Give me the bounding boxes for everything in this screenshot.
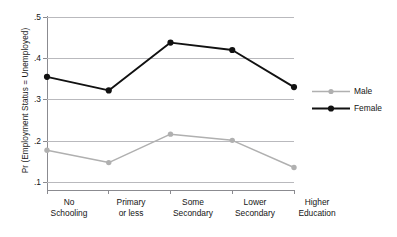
- series-line-female: [47, 43, 294, 91]
- data-point-male-3: [230, 138, 235, 143]
- data-point-male-1: [106, 160, 111, 165]
- legend-item-male: Male: [311, 85, 397, 102]
- data-point-female-4: [291, 84, 297, 90]
- data-point-female-2: [167, 39, 173, 45]
- data-point-male-0: [44, 148, 49, 153]
- data-point-female-1: [106, 87, 112, 93]
- legend-label-male: Male: [354, 86, 372, 96]
- chart-legend: Male Female: [311, 85, 397, 119]
- legend-swatch-female: [311, 102, 351, 115]
- data-point-female-3: [229, 47, 235, 53]
- legend-swatch-male: [311, 85, 351, 98]
- legend-label-female: Female: [354, 103, 382, 113]
- data-point-male-2: [168, 131, 173, 136]
- series-line-male: [47, 134, 294, 167]
- data-point-male-4: [291, 165, 296, 170]
- legend-item-female: Female: [311, 102, 397, 119]
- data-point-female-0: [44, 74, 50, 80]
- chart-figure: Pr (Employment Status = Unemployed) .5 .…: [0, 0, 397, 237]
